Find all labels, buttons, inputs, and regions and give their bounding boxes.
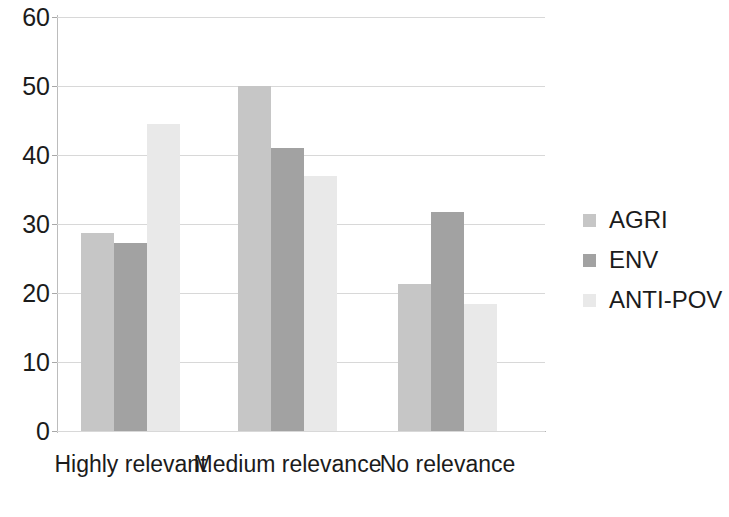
bar-env-no-relevance <box>431 212 464 431</box>
x-axis-category-label: No relevance <box>323 450 573 478</box>
legend-label: ENV <box>609 248 658 272</box>
y-axis-tick <box>52 431 57 432</box>
y-axis-tick-label: 30 <box>6 212 50 237</box>
gridline <box>57 17 545 18</box>
y-axis-tick <box>52 362 57 363</box>
bar-agri-highly-relevant <box>81 233 114 431</box>
gridline <box>57 431 545 432</box>
bar-env-highly-relevant <box>114 243 147 431</box>
legend-item-anti-pov[interactable]: ANTI-POV <box>583 280 729 320</box>
y-axis-tick <box>52 293 57 294</box>
legend-swatch-icon <box>583 254 596 267</box>
y-axis-tick-label: 60 <box>6 5 50 30</box>
legend-swatch-icon <box>583 294 596 307</box>
bar-anti-pov-highly-relevant <box>147 124 180 431</box>
y-axis-tick-label: 0 <box>6 419 50 444</box>
y-axis-tick <box>52 86 57 87</box>
gridline <box>57 86 545 87</box>
bar-chart: 0102030405060 Highly relevantMedium rele… <box>0 0 729 517</box>
y-axis-tick-label: 40 <box>6 143 50 168</box>
y-axis-tick <box>52 17 57 18</box>
y-axis-tick <box>52 224 57 225</box>
y-axis-tick-label: 50 <box>6 74 50 99</box>
y-axis-tick-label: 20 <box>6 281 50 306</box>
legend-label: ANTI-POV <box>609 288 722 312</box>
bar-agri-no-relevance <box>398 284 431 431</box>
y-axis-tick <box>52 155 57 156</box>
bar-anti-pov-no-relevance <box>464 304 497 431</box>
bar-agri-medium-relevance <box>238 86 271 431</box>
legend-item-env[interactable]: ENV <box>583 240 729 280</box>
legend-swatch-icon <box>583 214 596 227</box>
y-axis-tick-labels: 0102030405060 <box>0 0 50 517</box>
bar-env-medium-relevance <box>271 148 304 431</box>
y-axis-tick-label: 10 <box>6 350 50 375</box>
legend-label: AGRI <box>609 208 668 232</box>
plot-area <box>57 17 545 431</box>
legend: AGRIENVANTI-POV <box>583 200 729 320</box>
bar-anti-pov-medium-relevance <box>304 176 337 431</box>
legend-item-agri[interactable]: AGRI <box>583 200 729 240</box>
